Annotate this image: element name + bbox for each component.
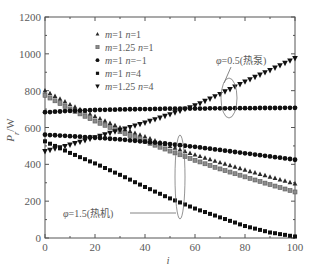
series-m1-n-1-upper-point: [158, 106, 163, 111]
series-m1.25-n1-point: [293, 190, 297, 194]
series-m1-n4-point: [258, 228, 262, 232]
series-m1-n-1-upper-point: [98, 107, 103, 112]
series-m1.25-n1-point: [258, 179, 262, 183]
series-m1-n4-point: [263, 229, 267, 233]
series-m1.25-n1-point: [88, 117, 92, 121]
series-m1-n4-point: [213, 214, 217, 218]
series-m1-n-1-upper-point: [43, 110, 48, 115]
series-m1.25-n1-point: [208, 163, 212, 167]
legend-marker: [96, 58, 100, 62]
series-m1-n1-point: [198, 154, 203, 158]
series-m1.25-n4-point: [282, 61, 288, 66]
series-m1-n-1-upper-point: [103, 107, 108, 112]
text-part: =1: [130, 29, 141, 40]
series-m1.25-n1-point: [253, 178, 257, 182]
x-tick-label: 20: [90, 241, 102, 253]
series-m1-n4-point: [43, 139, 47, 143]
series-m1.25-n1-point: [63, 104, 67, 108]
series-m1-n-1-upper-point: [243, 106, 248, 111]
y-tick-label: 800: [25, 85, 42, 97]
series-m1-n1-point: [228, 163, 233, 167]
text-part: m: [105, 81, 112, 92]
series-m1-n1-point: [53, 94, 58, 98]
series-m1-n-1-lower-point: [268, 154, 273, 159]
series-m1.25-n4-point: [142, 120, 148, 125]
series-m1.25-n1-point: [283, 187, 287, 191]
series-m1-n4-point: [243, 224, 247, 228]
series-m1.25-n4-point: [212, 94, 218, 99]
series-m1-n4-point: [208, 212, 212, 216]
series-m1-n-1-lower-point: [158, 141, 163, 146]
series-m1-n1-point: [58, 96, 63, 100]
series-m1-n-1-upper-point: [48, 110, 53, 115]
series-m1-n4-point: [78, 155, 82, 159]
series-m1-n-1-lower-point: [78, 134, 83, 139]
series-m1.25-n4-point: [102, 132, 108, 137]
series-m1-n-1-lower-point: [168, 142, 173, 147]
series-m1-n-1-lower-point: [68, 134, 73, 139]
text-part: =4: [143, 81, 154, 92]
series-m1-n1-point: [148, 136, 153, 140]
series-m1.25-n1-point: [233, 172, 237, 176]
series-m1.25-n1-point: [168, 149, 172, 153]
series-m1.25-n1-point: [188, 156, 192, 160]
series-m1-n-1-lower-point: [203, 146, 208, 151]
series-m1-n4-point: [193, 207, 197, 211]
series-m1-n-1-lower-point: [228, 149, 233, 154]
series-m1-n4-point: [168, 196, 172, 200]
series-m1-n-1-upper-point: [273, 106, 278, 111]
series-m1.25-n1-point: [268, 183, 272, 187]
series-m1-n-1-upper-point: [63, 109, 68, 114]
series-m1.25-n4-point: [162, 114, 168, 119]
series-m1-n4-point: [128, 178, 132, 182]
series-m1-n4-point: [293, 235, 297, 239]
series-m1.25-n4-point: [52, 146, 58, 151]
series-m1-n1-point: [183, 149, 188, 153]
text-part: m: [105, 29, 112, 40]
series-m1-n-1-lower-point: [108, 136, 113, 141]
series-m1.25-n1-point: [93, 119, 97, 123]
series-m1.25-n1-point: [163, 147, 167, 151]
series-m1-n1-point: [268, 174, 273, 178]
series-m1.25-n1-point: [223, 169, 227, 173]
text-part: =1: [112, 29, 125, 40]
text-part: =0.5(热泵): [222, 54, 267, 67]
text-part: =1: [112, 55, 125, 66]
series-m1-n-1-upper-point: [113, 107, 118, 112]
legend-marker: [96, 72, 99, 75]
text-part: m: [105, 42, 112, 53]
text-part: =1.25: [112, 81, 138, 92]
series-m1-n4-point: [48, 142, 52, 146]
series-m1.25-n4-point: [62, 144, 68, 149]
series-m1-n-1-lower-point: [193, 144, 198, 149]
series-m1.25-n1-point: [48, 96, 52, 100]
series-m1-n1-point: [178, 147, 183, 151]
series-m1-n-1-lower-point: [278, 155, 283, 160]
series-m1.25-n1-point: [58, 102, 62, 106]
series-m1-n-1-lower-point: [113, 137, 118, 142]
plot-frame: [45, 17, 295, 238]
series-m1-n1-point: [238, 166, 243, 170]
series-m1-n1-point: [223, 161, 228, 165]
series-m1.25-n4-point: [217, 92, 223, 97]
series-m1-n-1-lower-point: [53, 133, 58, 138]
series-m1.25-n4-point: [262, 70, 268, 75]
series-m1-n4-point: [273, 231, 277, 235]
series-m1.25-n1-point: [158, 145, 162, 149]
series-m1-n1-point: [213, 158, 218, 162]
y-tick-label: 1200: [19, 11, 42, 23]
series-m1-n1-point: [63, 99, 68, 103]
series-m1-n-1-upper-point: [123, 107, 128, 112]
series-m1-n1-point: [253, 170, 258, 174]
series-m1-n1-point: [203, 155, 208, 159]
series-m1-n1-point: [293, 181, 298, 185]
text-part: i: [166, 254, 169, 266]
series-m1-n-1-lower-point: [43, 132, 48, 137]
y-axis-label: Pr/W: [4, 118, 21, 143]
series-m1-n4-point: [178, 200, 182, 204]
legend-label: m=1 n=−1: [105, 55, 147, 66]
series-m1.25-n1-point: [83, 114, 87, 118]
series-m1.25-n4-point: [277, 63, 283, 68]
series-m1.25-n4-point: [222, 89, 228, 94]
series-m1.25-n4-point: [167, 112, 173, 117]
